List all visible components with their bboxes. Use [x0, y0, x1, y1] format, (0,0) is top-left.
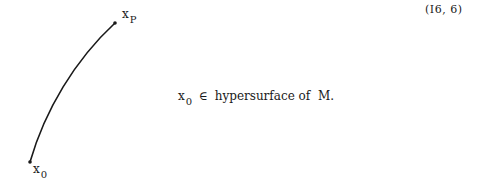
- element-of-symbol: ∈: [199, 89, 208, 103]
- label-symbol: x: [122, 7, 129, 21]
- statement-text: hypersurface of M.: [215, 89, 334, 103]
- label-x-p: xP: [122, 7, 137, 21]
- label-symbol: x: [33, 162, 40, 176]
- statement: x0 ∈ hypersurface of M.: [178, 89, 334, 103]
- endpoint-dot-bottom: [28, 160, 32, 164]
- label-x-0: x0: [33, 162, 47, 176]
- label-subscript: 0: [41, 169, 47, 180]
- curve-path: [30, 23, 115, 162]
- label-subscript: P: [130, 14, 137, 25]
- equation-number: (I6, 6): [425, 3, 462, 16]
- endpoint-dot-top: [113, 21, 117, 25]
- statement-symbol: x: [178, 89, 185, 103]
- statement-subscript: 0: [186, 96, 192, 107]
